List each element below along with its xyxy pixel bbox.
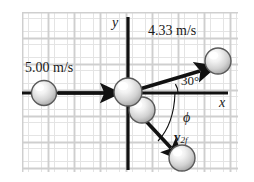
physics-collision-diagram: 5.00 m/s 4.33 m/s 30° ϕ v2f x y [0, 0, 254, 182]
velocity-vector-label: v2f [174, 130, 188, 145]
incoming-speed-label: 5.00 m/s [25, 61, 73, 75]
ball-outgoing-lower [169, 145, 195, 171]
y-axis-label: y [112, 16, 118, 30]
ball-target-upper [114, 78, 142, 106]
velocity-vector-subscript: 2f [181, 135, 188, 145]
ball-incoming [32, 81, 57, 106]
diagram-canvas [0, 0, 254, 182]
outgoing-speed-label: 4.33 m/s [148, 24, 196, 38]
x-axis-label: x [219, 96, 225, 110]
angle-30-label: 30° [181, 74, 199, 87]
angle-phi-label: ϕ [183, 111, 190, 125]
ball-outgoing-upper [205, 48, 231, 74]
